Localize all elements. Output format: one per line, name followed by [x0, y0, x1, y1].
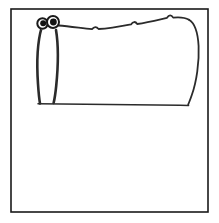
drawing-canvas — [0, 0, 219, 223]
creature-sketch-svg — [0, 0, 219, 223]
head-group — [37, 15, 59, 31]
drawing-frame — [11, 9, 208, 212]
left-eye-pupil-icon — [40, 20, 46, 26]
right-eye-pupil-icon — [50, 19, 57, 26]
